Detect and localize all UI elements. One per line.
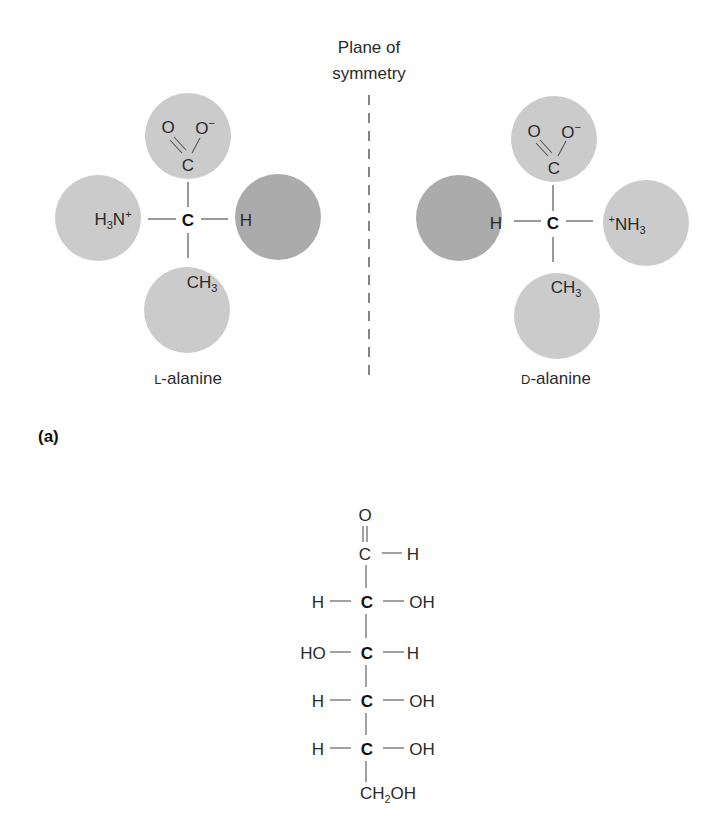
- d-oxygen-minus: O−: [561, 122, 581, 141]
- plane-label-line2: symmetry: [332, 65, 406, 82]
- l-amino-group: H3N+: [94, 209, 131, 231]
- row4-left: H: [312, 741, 324, 758]
- terminal-ch2oh: CH2OH: [360, 785, 416, 805]
- panel-label-a: (a): [38, 427, 59, 447]
- d-alpha-carbon: C: [547, 215, 559, 232]
- l-carboxyl-carbon: C: [182, 157, 194, 174]
- row4-carbon: C: [361, 741, 373, 758]
- l-oxygen-double: O: [161, 119, 174, 136]
- row1-carbon: C: [361, 594, 373, 611]
- row4-right: OH: [409, 741, 435, 758]
- row2-right: H: [407, 645, 419, 662]
- d-oxygen-double: O: [527, 123, 540, 140]
- row1-right: OH: [409, 594, 435, 611]
- l-alanine-label: L-alanineL-alanine: [154, 370, 222, 387]
- d-amino-group: +NH3: [608, 214, 645, 236]
- row1-left: H: [312, 594, 324, 611]
- plane-label-line1: Plane of: [338, 39, 400, 56]
- row2-left: HO: [300, 645, 326, 662]
- row2-carbon: C: [361, 645, 373, 662]
- row3-right: OH: [409, 693, 435, 710]
- d-carboxyl-carbon: C: [548, 160, 560, 177]
- aldehyde-hydrogen: H: [407, 546, 419, 563]
- row3-carbon: C: [361, 693, 373, 710]
- d-hydrogen: H: [490, 215, 502, 232]
- l-hydrogen: H: [240, 212, 252, 229]
- aldehyde-carbon: C: [359, 546, 371, 563]
- l-alpha-carbon: C: [182, 212, 194, 229]
- l-oxygen-minus: O−: [195, 118, 215, 137]
- l-methyl-group: CH3: [187, 274, 218, 294]
- d-alanine-label: D-alanineD-alanine: [521, 370, 591, 387]
- aldehyde-oxygen: O: [358, 507, 371, 524]
- d-methyl-group: CH3: [551, 279, 582, 299]
- row3-left: H: [312, 693, 324, 710]
